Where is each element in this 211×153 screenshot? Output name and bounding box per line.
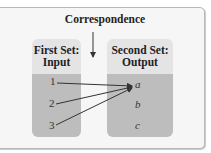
second-set-heading: Second Set: Output: [107, 39, 173, 74]
input-element-1: 1: [50, 75, 56, 87]
output-element-c: c: [135, 119, 140, 131]
second-set-heading-line2: Output: [107, 56, 173, 68]
output-element-a: a: [135, 78, 141, 90]
diagram-frame: [0, 7, 205, 149]
first-set-heading-line1: First Set:: [32, 44, 81, 56]
first-set-heading: First Set: Input: [32, 39, 81, 74]
first-set-input: First Set: Input: [32, 39, 81, 137]
second-set-heading-line1: Second Set:: [107, 44, 173, 56]
first-set-body: [32, 74, 81, 137]
correspondence-label: Correspondence: [60, 13, 150, 25]
input-element-3: 3: [49, 119, 55, 131]
first-set-heading-line2: Input: [32, 56, 81, 68]
output-element-b: b: [135, 98, 141, 110]
input-element-2: 2: [49, 97, 55, 109]
